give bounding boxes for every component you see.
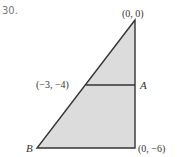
label-B: B <box>26 142 33 154</box>
problem-number: 30. <box>2 5 18 16</box>
label-A: A <box>139 79 147 91</box>
label-point-0-minus6: (0, −6) <box>138 143 165 155</box>
label-point-minus3-minus4: (−3, −4) <box>36 79 69 91</box>
triangle-figure: 30. (0, 0) (−3, −4) A B (0, −6) <box>0 0 188 157</box>
label-origin: (0, 0) <box>122 8 144 20</box>
